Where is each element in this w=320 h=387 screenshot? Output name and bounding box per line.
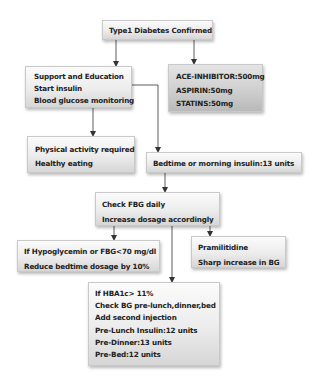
node-text: Pramilitidine — [198, 244, 279, 251]
node-text: Physical activity required — [35, 146, 128, 153]
node-text: If Hypoglycemin or FBG<70 mg/dl — [24, 248, 153, 255]
node-medications: ACE-INHIBITOR:500mg ASPIRIN:50mg STATINS… — [168, 64, 263, 112]
node-bedtime-insulin: Bedtime or morning insulin:13 units — [146, 152, 302, 173]
flowchart-canvas: Type1 Diabetes Confirmed Support and Edu… — [0, 0, 320, 387]
node-text: Healthy eating — [35, 160, 128, 167]
node-text: Sharp increase in BG — [198, 259, 279, 266]
node-hba1c: If HBA1c> 11% Check BG pre-lunch,dinner,… — [88, 282, 220, 366]
node-text: ASPIRIN:50mg — [176, 87, 256, 94]
node-text: ACE-INHIBITOR:500mg — [176, 73, 256, 80]
node-text: Bedtime or morning insulin:13 units — [153, 160, 295, 167]
node-text: Blood glucose monitoring — [34, 97, 125, 104]
node-text: Pre-Lunch Insulin:12 units — [95, 327, 213, 334]
node-text: Reduce bedtime dosage by 10% — [24, 263, 153, 270]
node-text: Start insulin — [34, 85, 125, 92]
node-text: Add second injection — [95, 314, 213, 321]
node-pramlintide: Pramilitidine Sharp increase in BG — [191, 236, 286, 268]
node-text: Check FBG daily — [102, 201, 213, 208]
node-hypoglycemia: If Hypoglycemin or FBG<70 mg/dl Reduce b… — [17, 240, 160, 272]
node-text: Increase dosage accordingly — [102, 216, 213, 223]
node-text: Pre-Bed:12 units — [95, 351, 213, 358]
node-type1-diabetes-confirmed: Type1 Diabetes Confirmed — [102, 20, 213, 40]
node-lifestyle: Physical activity required Healthy eatin… — [27, 136, 135, 173]
node-text: STATINS:50mg — [176, 100, 256, 107]
node-text: Check BG pre-lunch,dinner,bed — [95, 302, 213, 309]
node-text: Pre-Dinner:13 units — [95, 339, 213, 346]
node-text: Support and Education — [34, 73, 125, 80]
node-check-fbg: Check FBG daily Increase dosage accordin… — [95, 192, 220, 226]
node-text: Type1 Diabetes Confirmed — [109, 27, 206, 34]
node-support-education: Support and Education Start insulin Bloo… — [25, 66, 132, 108]
node-text: If HBA1c> 11% — [95, 290, 213, 297]
